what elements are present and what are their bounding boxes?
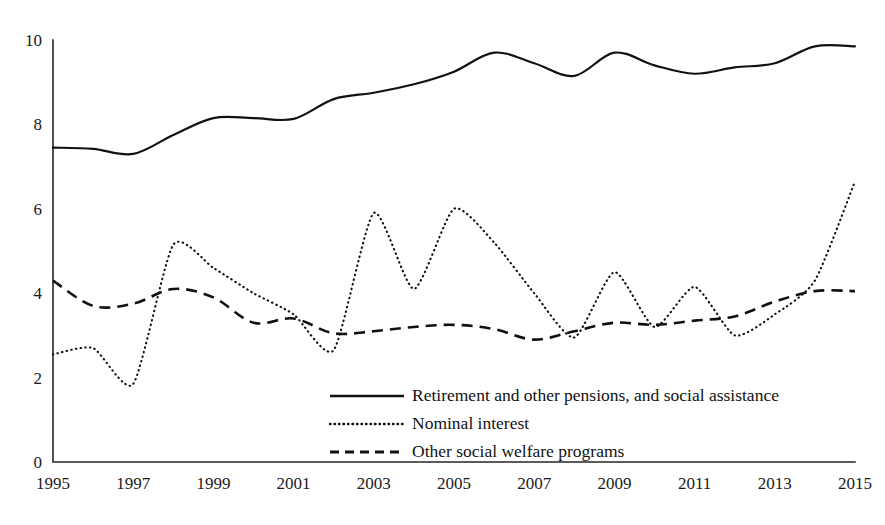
x-tick-label: 1997 [116,474,151,493]
x-tick-label: 2003 [357,474,391,493]
legend-item: Other social welfare programs [330,441,625,461]
legend-item-label: Nominal interest [412,413,529,433]
x-tick-label: 2001 [277,474,311,493]
series-line-solid [53,45,855,154]
chart-container: 0246810 19951997199920012003200520072009… [0,0,885,525]
series-line-dashed [53,281,855,340]
x-tick-label: 2013 [758,474,792,493]
series-line-dotted [53,181,855,385]
y-tick-label: 0 [34,453,43,472]
y-tick-label: 4 [34,284,43,303]
legend-item-label: Other social welfare programs [412,441,625,461]
x-tick-label: 2009 [597,474,631,493]
line-chart: 0246810 19951997199920012003200520072009… [0,0,885,525]
legend-item-label: Retirement and other pensions, and socia… [412,385,779,405]
legend-item: Retirement and other pensions, and socia… [330,385,779,405]
x-axis-tick-labels: 1995199719992001200320052007200920112013… [36,474,872,493]
y-tick-label: 8 [34,115,43,134]
x-tick-label: 2011 [678,474,711,493]
y-tick-label: 6 [34,200,43,219]
x-tick-label: 1999 [196,474,230,493]
series-group [53,45,855,386]
chart-legend: Retirement and other pensions, and socia… [330,385,779,461]
y-tick-label: 10 [25,31,42,50]
x-tick-label: 2005 [437,474,471,493]
legend-item: Nominal interest [330,413,529,433]
x-tick-label: 1995 [36,474,70,493]
x-tick-label: 2007 [517,474,552,493]
y-tick-label: 2 [34,369,43,388]
x-tick-label: 2015 [838,474,872,493]
y-axis-tick-labels: 0246810 [25,31,43,472]
